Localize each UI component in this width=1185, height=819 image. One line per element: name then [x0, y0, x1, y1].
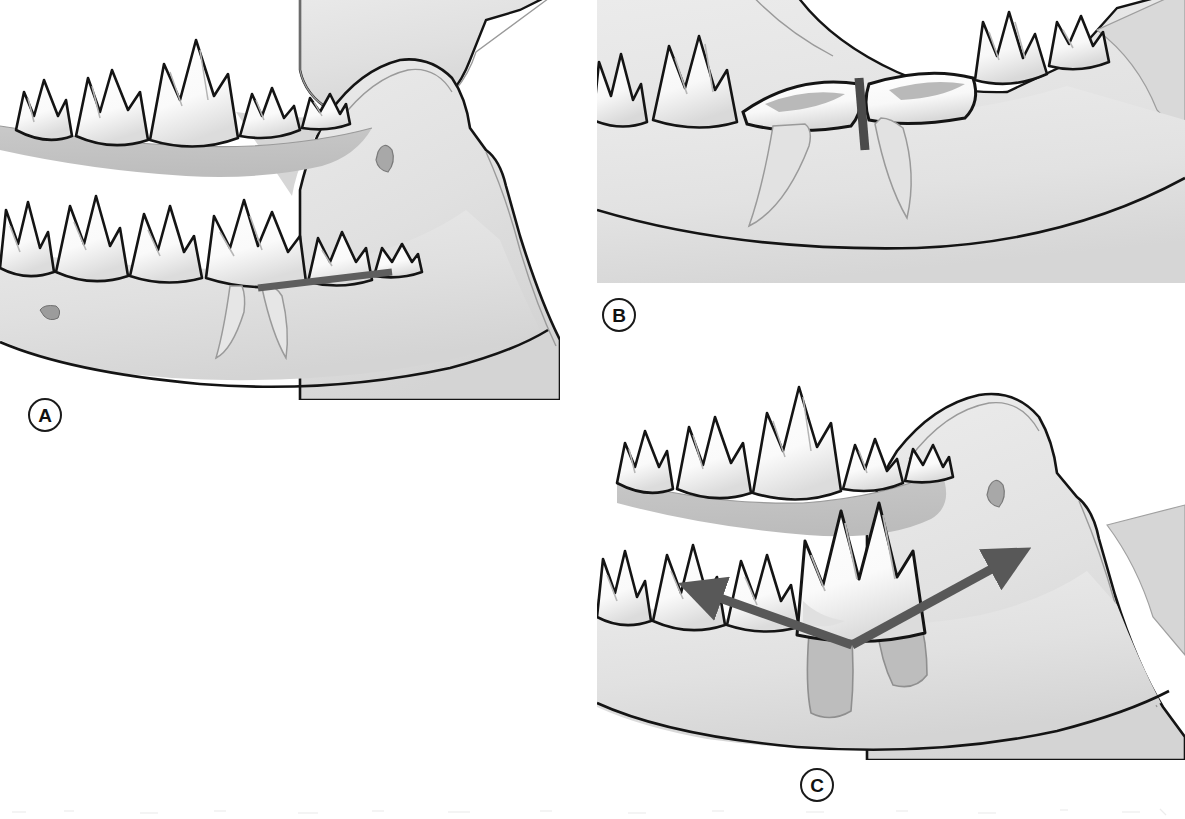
panel-a-sectioning-line: [0, 0, 560, 400]
panel-a-illustration: [0, 0, 560, 400]
scan-artifact-strip: [0, 805, 1185, 819]
mandibular-first-molar: [206, 200, 306, 287]
sectioned-crown-distal-half: [866, 73, 976, 123]
panel-b-sectioned-crown: [597, 0, 1185, 283]
panel-c-elevation-arrows: [597, 355, 1185, 760]
panel-label-c: C: [800, 768, 834, 802]
panel-c-illustration: [597, 355, 1185, 760]
section-cut-marker: [859, 78, 865, 150]
dental-extraction-figure: A B C: [0, 0, 1185, 819]
panel-label-b: B: [602, 298, 636, 332]
panel-label-a: A: [28, 398, 62, 432]
panel-b-illustration: [597, 0, 1185, 283]
